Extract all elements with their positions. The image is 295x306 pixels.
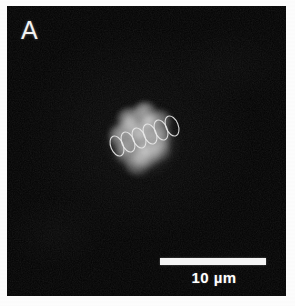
cell-lobe	[149, 140, 171, 162]
scale-bar-label: 10 µm	[160, 270, 268, 287]
cell-lobe	[139, 114, 159, 133]
cell-cluster[interactable]	[95, 94, 191, 188]
cell-lobe	[121, 116, 141, 135]
figure-root: A 10 µm	[0, 0, 295, 306]
panel-label: A	[21, 18, 38, 43]
cell-lobe	[125, 154, 151, 176]
scale-bar	[160, 258, 266, 265]
micrograph-panel[interactable]: A 10 µm	[7, 6, 286, 296]
scale-bar-group: 10 µm	[160, 258, 268, 287]
